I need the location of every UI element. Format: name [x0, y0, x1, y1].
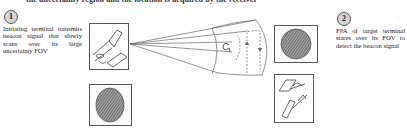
target-terminal-icon	[279, 80, 307, 118]
beacon-scan-cone	[130, 20, 267, 75]
target-fpa-icon	[281, 29, 311, 59]
initiating-fpa-icon	[96, 88, 124, 122]
initiating-terminal-icon	[93, 30, 127, 67]
diagram-graphics	[0, 0, 407, 134]
